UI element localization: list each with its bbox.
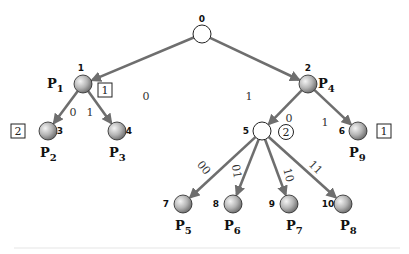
count-box: 1 bbox=[377, 124, 391, 138]
edge-label: 0 bbox=[286, 112, 293, 125]
filled-node-icon bbox=[39, 122, 57, 140]
filled-node-icon bbox=[174, 195, 192, 213]
tree-node-7: 7P5 bbox=[163, 195, 192, 236]
nodes-layer: 01P12P43P24P356P97P58P69P710P8 bbox=[39, 14, 367, 236]
process-label: P7 bbox=[286, 218, 303, 236]
count-box: 1 bbox=[98, 83, 112, 97]
node-number: 9 bbox=[269, 199, 275, 209]
node-number: 8 bbox=[213, 199, 219, 209]
process-label: P5 bbox=[175, 218, 192, 236]
count-ring-value: 2 bbox=[283, 126, 290, 139]
filled-node-icon bbox=[299, 75, 317, 93]
node-number: 7 bbox=[163, 199, 169, 209]
empty-node-icon bbox=[253, 122, 271, 140]
filled-node-icon bbox=[349, 122, 367, 140]
edge-label: 1 bbox=[87, 106, 94, 119]
process-label: P2 bbox=[40, 145, 57, 163]
empty-node-icon bbox=[193, 25, 211, 43]
node-number: 0 bbox=[199, 14, 205, 24]
edge-0-2 bbox=[210, 38, 299, 80]
process-label: P1 bbox=[47, 76, 64, 94]
tree-node-4: 4P3 bbox=[108, 122, 132, 163]
tree-node-9: 9P7 bbox=[269, 195, 303, 236]
process-label: P8 bbox=[340, 218, 357, 236]
edge-label: 1 bbox=[246, 90, 253, 103]
tree-node-0: 0 bbox=[193, 14, 211, 43]
node-number: 10 bbox=[322, 199, 335, 209]
count-box-value: 2 bbox=[15, 125, 22, 138]
node-number: 5 bbox=[243, 126, 249, 136]
process-label: P6 bbox=[224, 218, 241, 236]
count-ring: 2 bbox=[279, 125, 294, 140]
filled-node-icon bbox=[334, 195, 352, 213]
tree-node-6: 6P9 bbox=[339, 122, 367, 163]
edge-0-1 bbox=[92, 37, 193, 80]
tree-node-8: 8P6 bbox=[213, 195, 242, 236]
edge-label: 0 bbox=[70, 106, 77, 119]
process-label: P4 bbox=[318, 76, 335, 94]
tree-diagram: 01010100011011 01P12P43P24P356P97P58P69P… bbox=[0, 0, 409, 254]
node-number: 2 bbox=[305, 63, 311, 73]
count-box: 2 bbox=[11, 124, 25, 138]
tree-node-2: 2P4 bbox=[299, 63, 335, 94]
edge-label: 0 bbox=[143, 90, 150, 103]
tree-node-3: 3P2 bbox=[39, 122, 63, 163]
filled-node-icon bbox=[74, 75, 92, 93]
edge-label: 1 bbox=[322, 116, 329, 129]
process-label: P9 bbox=[349, 145, 366, 163]
process-label: P3 bbox=[109, 145, 126, 163]
filled-node-icon bbox=[280, 195, 298, 213]
node-number: 4 bbox=[126, 126, 132, 136]
edge-label: 10 bbox=[280, 167, 296, 184]
count-box-value: 1 bbox=[102, 84, 109, 97]
edge-2-6 bbox=[315, 90, 351, 124]
tree-node-1: 1P1 bbox=[47, 63, 92, 94]
tree-node-5: 5 bbox=[243, 122, 271, 140]
tree-node-10: 10P8 bbox=[322, 195, 357, 236]
filled-node-icon bbox=[108, 122, 126, 140]
node-number: 6 bbox=[339, 126, 345, 136]
node-number: 1 bbox=[78, 63, 84, 73]
edge-label: 00 bbox=[194, 158, 213, 177]
filled-node-icon bbox=[224, 195, 242, 213]
edge-label: 01 bbox=[229, 163, 244, 179]
node-number: 3 bbox=[57, 126, 63, 136]
count-box-value: 1 bbox=[381, 125, 388, 138]
